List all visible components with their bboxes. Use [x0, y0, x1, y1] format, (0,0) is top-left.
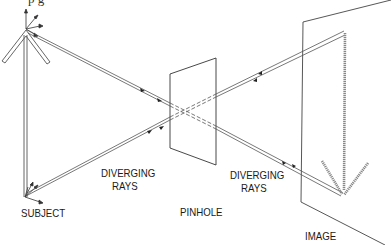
subject-arrow: [2, 30, 50, 197]
label-subject: SUBJECT: [21, 207, 65, 219]
label-image: IMAGE: [305, 230, 336, 242]
subject-top-rays-icon: [25, 9, 44, 37]
label-diverging-left: DIVERGING: [101, 167, 155, 179]
pinhole-camera-diagram: p g: [0, 0, 391, 245]
pinhole-plate: [170, 58, 216, 165]
ray-arrowheads: [140, 71, 296, 168]
label-pinhole: PINHOLE: [180, 206, 223, 218]
ray-bottom-to-top: [26, 31, 345, 196]
label-diverging-right: DIVERGING: [230, 169, 284, 181]
image-arrow: [322, 33, 368, 195]
label-rays-right: RAYS: [241, 182, 267, 194]
label-rays-left: RAYS: [112, 180, 138, 192]
image-plane: [301, 0, 391, 245]
